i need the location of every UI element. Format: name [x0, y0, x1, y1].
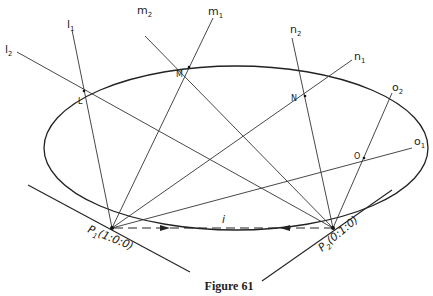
- point-n: [304, 95, 307, 98]
- line-l2: [17, 52, 333, 228]
- label-l1: l1: [67, 18, 75, 33]
- line-m1: [112, 18, 213, 228]
- conic-diagram: L M N O l1 l2 m2 m1 n2 n1 o2 o1 i P1(1:0…: [0, 0, 433, 296]
- label-m1: m1: [208, 5, 223, 20]
- label-o: O: [354, 152, 360, 161]
- label-p2: P2(0:1:0): [316, 213, 362, 255]
- line-l1: [72, 30, 112, 228]
- arrow-right-icon: [160, 225, 170, 231]
- line-m2: [145, 36, 333, 228]
- label-m2: m2: [137, 4, 152, 19]
- label-n2: n2: [290, 23, 301, 38]
- arrow-left-icon: [280, 225, 290, 231]
- label-l: L: [78, 97, 83, 106]
- label-o1: o1: [414, 135, 425, 150]
- line-o2: [333, 93, 392, 228]
- point-p1: [110, 226, 114, 230]
- label-i: i: [222, 213, 225, 226]
- label-l2: l2: [5, 43, 13, 58]
- point-m: [188, 66, 191, 69]
- line-n1: [112, 60, 352, 228]
- label-n: N: [291, 94, 297, 103]
- line-n2: [292, 38, 333, 228]
- point-l: [83, 90, 86, 93]
- point-o: [363, 157, 366, 160]
- label-m: M: [176, 70, 183, 79]
- figure-caption: Figure 61: [205, 279, 254, 293]
- label-n1: n1: [354, 50, 365, 65]
- label-o2: o2: [392, 81, 403, 96]
